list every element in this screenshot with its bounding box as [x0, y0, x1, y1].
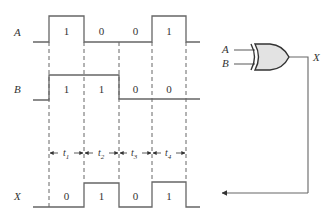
waveform-x: X 0 1 0 1: [13, 182, 200, 207]
bit-b-1: 1: [64, 83, 70, 95]
interval-markers: t1 t2 t3 t4: [50, 147, 185, 161]
bit-x-3: 0: [133, 190, 139, 202]
waveform-a: A 1 0 0 1: [13, 16, 200, 42]
waveform-b: B 1 1 0 0: [14, 75, 200, 100]
interval-label-t3: t3: [131, 147, 138, 161]
bit-b-2: 1: [99, 83, 105, 95]
interval-label-t1: t1: [63, 147, 69, 161]
bit-b-3: 0: [133, 83, 139, 95]
bit-a-2: 0: [99, 25, 105, 37]
bit-x-4: 1: [166, 190, 172, 202]
bit-a-4: 1: [166, 25, 172, 37]
xor-gate-body: [255, 44, 289, 70]
bit-x-1: 0: [64, 190, 70, 202]
gate-output-label-x: X: [312, 51, 321, 63]
xor-gate: A B X: [221, 43, 321, 193]
timing-diagram: A 1 0 0 1 B 1 1 0 0 t1 t2 t3 t4 X 0 1 0: [0, 0, 336, 212]
interval-label-t4: t4: [165, 147, 172, 161]
signal-label-a: A: [13, 26, 21, 38]
bit-a-1: 1: [64, 25, 70, 37]
bit-b-4: 0: [166, 83, 172, 95]
gate-input-label-a: A: [221, 43, 229, 55]
gate-input-label-b: B: [222, 57, 229, 69]
interval-label-t2: t2: [98, 147, 105, 161]
bit-x-2: 1: [99, 190, 105, 202]
signal-label-b: B: [14, 83, 21, 95]
bit-a-3: 0: [133, 25, 139, 37]
signal-label-x: X: [13, 190, 22, 202]
